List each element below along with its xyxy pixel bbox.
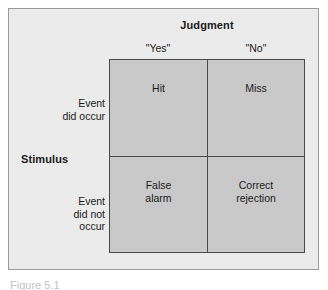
outcome-matrix: Hit Miss False alarm Correct rejection <box>109 59 305 253</box>
stimulus-row-group-title: Stimulus <box>21 153 109 165</box>
column-header-yes: "Yes" <box>109 42 207 54</box>
figure-panel: Judgment "Yes" "No" Stimulus Event did o… <box>8 8 319 270</box>
row-header-event-did-not-occur-line1: Event <box>11 195 105 208</box>
row-header-event-did-not-occur-line2: did not <box>11 208 105 221</box>
matrix-cell-false-alarm-line1: False <box>110 179 207 192</box>
row-header-event-did-not-occur: Event did not occur <box>11 195 105 233</box>
matrix-cell-false-alarm-label: False alarm <box>110 179 207 204</box>
matrix-cell-correct-rejection-line2: rejection <box>208 192 304 205</box>
matrix-cell-hit: Hit <box>110 60 207 156</box>
row-header-event-did-occur: Event did occur <box>11 97 105 122</box>
matrix-cell-false-alarm: False alarm <box>110 156 207 252</box>
matrix-cell-correct-rejection-label: Correct rejection <box>208 179 304 204</box>
figure-caption: Figure 5.1 <box>10 279 190 290</box>
column-header-no: "No" <box>207 42 305 54</box>
row-header-event-did-not-occur-line3: occur <box>11 220 105 233</box>
row-header-event-did-occur-line2: did occur <box>11 110 105 123</box>
judgment-column-group-title: Judgment <box>109 19 305 31</box>
matrix-cell-false-alarm-line2: alarm <box>110 192 207 205</box>
matrix-cell-miss-label: Miss <box>208 82 304 95</box>
matrix-cell-correct-rejection: Correct rejection <box>207 156 304 252</box>
matrix-cell-miss: Miss <box>207 60 304 156</box>
figure-root: Judgment "Yes" "No" Stimulus Event did o… <box>0 0 328 290</box>
matrix-cell-hit-label: Hit <box>110 82 207 95</box>
row-header-event-did-occur-line1: Event <box>11 97 105 110</box>
matrix-cell-correct-rejection-line1: Correct <box>208 179 304 192</box>
